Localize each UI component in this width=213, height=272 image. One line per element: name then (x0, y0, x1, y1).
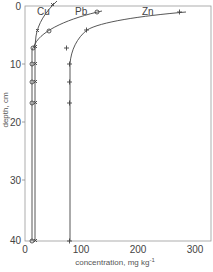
x-tick-300: 300 (187, 244, 204, 255)
label-pb: Pb (75, 6, 88, 17)
plot-frame (25, 6, 211, 241)
series-cu: Cu (34, 1, 57, 242)
x-tick-0: 0 (22, 244, 28, 255)
series-zn: Zn (64, 6, 186, 244)
y-tick-30: 30 (10, 175, 22, 186)
depth-profile-chart: 0 10 20 30 40 depth, cm 0 100 200 300 co… (0, 0, 213, 272)
x-tick-200: 200 (130, 244, 147, 255)
y-tick-40: 40 (10, 235, 22, 246)
y-tick-10: 10 (10, 59, 22, 70)
x-axis: 0 100 200 300 concentration, mg kg-1 (22, 244, 204, 267)
x-tick-100: 100 (73, 244, 90, 255)
series-pb: Pb (30, 6, 102, 243)
y-axis-label: depth, cm (1, 92, 10, 127)
label-cu: Cu (37, 6, 50, 17)
label-zn: Zn (142, 6, 154, 17)
y-tick-0: 0 (15, 1, 21, 12)
x-axis-label: concentration, mg kg-1 (75, 257, 155, 267)
y-axis: 0 10 20 30 40 depth, cm (1, 1, 25, 246)
y-tick-20: 20 (10, 117, 22, 128)
